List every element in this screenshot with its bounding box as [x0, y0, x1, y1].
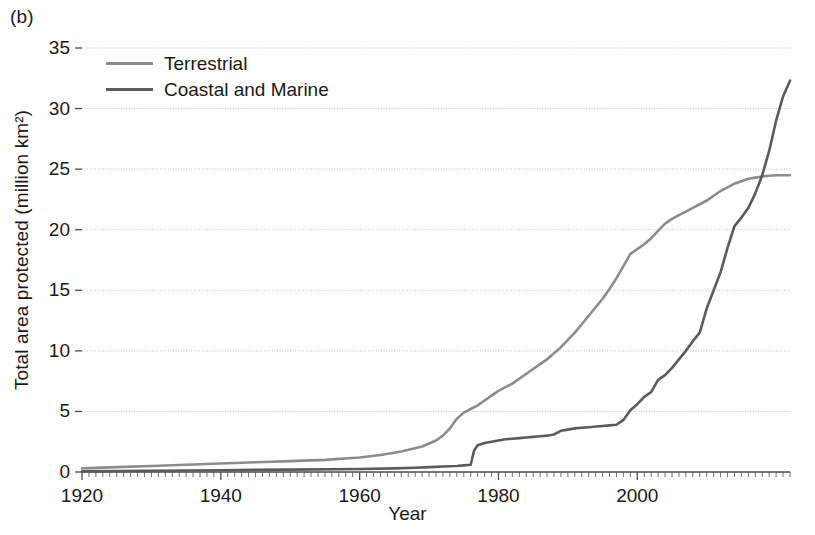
series-line-terrestrial: [82, 175, 790, 468]
legend-item-terrestrial[interactable]: Terrestrial: [106, 52, 329, 75]
legend-line-icon: [106, 88, 153, 91]
legend-item-coastal-and-marine[interactable]: Coastal and Marine: [106, 78, 329, 101]
legend-line-icon: [106, 62, 153, 65]
legend-label: Terrestrial: [164, 54, 247, 73]
chart-container: (b) Total area protected (million km²) Y…: [0, 0, 815, 535]
series-line-coastal-and-marine: [82, 81, 790, 472]
chart-legend: TerrestrialCoastal and Marine: [106, 52, 329, 104]
legend-label: Coastal and Marine: [164, 80, 329, 99]
